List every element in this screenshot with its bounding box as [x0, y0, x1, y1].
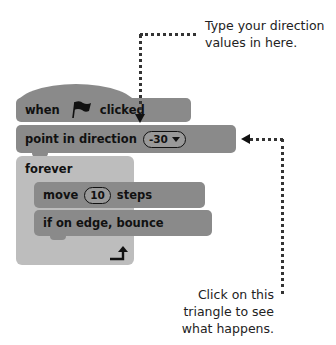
when-flag-clicked-block[interactable]: when clicked [16, 98, 191, 122]
annotation-top: Type your direction values in here. [205, 17, 325, 51]
annotation-line-top-vertical [139, 34, 142, 118]
point-in-direction-label: point in direction [25, 132, 137, 146]
annotation-bottom-line3: what happens. [182, 320, 274, 337]
bounce-label: if on edge, bounce [43, 216, 164, 230]
arrow-left-icon [241, 134, 250, 144]
block-notch [50, 236, 66, 240]
annotation-bottom-line2: triangle to see [182, 303, 274, 320]
green-flag-icon [72, 100, 92, 121]
direction-dropdown[interactable]: -30 [143, 131, 186, 148]
steps-input[interactable]: 10 [84, 187, 111, 204]
annotation-bottom-line1: Click on this [182, 286, 274, 303]
annotation-bottom: Click on this triangle to see what happe… [182, 286, 274, 337]
point-in-direction-block[interactable]: point in direction -30 [16, 125, 236, 153]
triangle-down-icon[interactable] [172, 137, 180, 142]
annotation-top-line2: values in here. [205, 34, 325, 51]
direction-value[interactable]: -30 [149, 133, 168, 145]
steps-value[interactable]: 10 [90, 189, 105, 201]
annotation-line-right-vertical [281, 139, 284, 294]
forever-label: forever [25, 162, 72, 176]
move-steps-block[interactable]: move 10 steps [34, 182, 205, 208]
annotation-line-right [250, 138, 283, 141]
annotation-line-top [140, 33, 196, 36]
arrow-down-icon [135, 114, 145, 123]
annotation-top-line1: Type your direction [205, 17, 325, 34]
if-on-edge-bounce-block[interactable]: if on edge, bounce [34, 210, 212, 236]
when-label: when [25, 103, 60, 117]
loop-arrow-icon [109, 244, 131, 266]
move-label: move [43, 188, 78, 202]
steps-label: steps [117, 188, 152, 202]
